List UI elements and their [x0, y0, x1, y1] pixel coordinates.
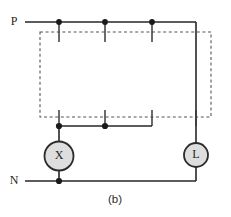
dashed-enclosure-box	[40, 32, 211, 117]
p-rail-node-1	[56, 19, 62, 25]
device-l-label: L	[192, 147, 199, 161]
n-rail-node-1	[56, 178, 62, 184]
circuit-schematic-canvas: X L P N (b)	[0, 0, 231, 217]
device-x-label: X	[55, 148, 64, 162]
p-rail-node-2	[102, 19, 108, 25]
bus-node-1	[56, 123, 62, 129]
live-rail-label: P	[11, 14, 18, 28]
figure-caption: (b)	[108, 193, 122, 205]
circuit-diagram-figure: X L P N (b)	[0, 0, 231, 217]
p-rail-node-3	[149, 19, 155, 25]
neutral-rail-label: N	[10, 173, 19, 187]
bus-node-2	[102, 123, 108, 129]
